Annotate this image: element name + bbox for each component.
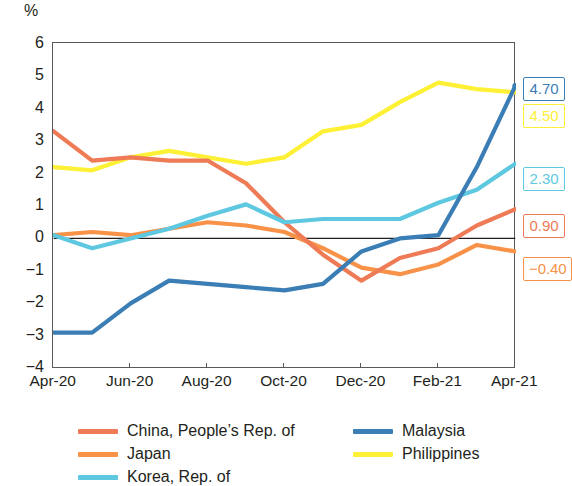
plot-canvas [53,43,516,369]
series-line [54,86,516,333]
x-axis-tick-mark [437,363,438,368]
legend-color-swatch [78,452,118,457]
legend-color-swatch [353,429,393,434]
y-axis-tick-label: 2 [8,165,44,181]
legend-label: Malaysia [402,422,465,440]
series-line [54,222,516,274]
y-axis-tick-label: 6 [8,35,44,51]
legend-label: Philippines [402,445,479,463]
x-axis-tick-mark [129,363,130,368]
end-value-label: 4.70 [523,77,565,101]
y-axis-tick-label: 1 [8,197,44,213]
end-value-label: 0.90 [523,214,565,238]
legend-color-swatch [78,429,118,434]
y-axis-tick-label: 4 [8,100,44,116]
legend-item[interactable]: Korea, Rep. of [78,468,230,486]
x-axis-tick-label: Dec-20 [335,372,385,389]
y-axis-tick-label: 5 [8,67,44,83]
x-axis-tick-mark [206,363,207,368]
y-axis-tick-label: 0 [8,229,44,245]
y-axis-unit-label: % [24,2,38,20]
end-value-label: 2.30 [523,167,565,191]
x-axis-tick-mark [283,363,284,368]
legend-color-swatch [353,452,393,457]
end-value-label: −0.40 [523,257,572,281]
legend-label: Japan [127,445,171,463]
x-axis-tick-label: Oct-20 [260,372,307,389]
x-axis-tick-mark [360,363,361,368]
x-axis-tick-label: Apr-21 [491,372,538,389]
plot-area [52,42,515,368]
x-axis-tick-label: Feb-21 [413,372,462,389]
legend-item[interactable]: China, People’s Rep. of [78,422,295,440]
legend-item[interactable]: Philippines [353,445,479,463]
end-value-label: 4.50 [523,104,565,128]
legend-label: China, People’s Rep. of [127,422,295,440]
y-axis-tick-label: 3 [8,132,44,148]
legend-item[interactable]: Japan [78,445,171,463]
series-lines [54,83,516,333]
x-axis-tick-label: Jun-20 [106,372,153,389]
chart-legend: China, People’s Rep. ofJapanKorea, Rep. … [0,412,567,480]
x-axis-tick-label: Aug-20 [182,372,232,389]
y-axis-tick-label: −1 [8,262,44,278]
y-axis-tick-label: −2 [8,294,44,310]
legend-item[interactable]: Malaysia [353,422,465,440]
legend-label: Korea, Rep. of [127,468,230,486]
x-axis-tick-label: Apr-20 [29,372,76,389]
y-axis-tick-label: −3 [8,327,44,343]
legend-color-swatch [78,475,118,480]
